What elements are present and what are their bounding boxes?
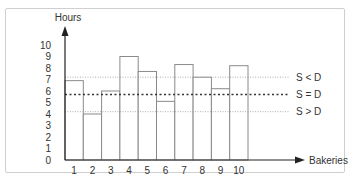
x-tick-4: 4 bbox=[126, 165, 132, 176]
y-axis-arrow-icon bbox=[62, 26, 69, 36]
x-tick-2: 2 bbox=[90, 165, 96, 176]
y-axis-label: Hours bbox=[55, 12, 82, 23]
x-tick-9: 9 bbox=[218, 165, 224, 176]
bar-8 bbox=[193, 77, 211, 160]
bar-4 bbox=[120, 57, 138, 161]
bar-2 bbox=[83, 114, 101, 160]
x-tick-7: 7 bbox=[181, 165, 187, 176]
bar-3 bbox=[102, 91, 120, 160]
y-tick-10: 10 bbox=[40, 40, 52, 51]
x-tick-10: 10 bbox=[233, 165, 245, 176]
y-tick-8: 8 bbox=[45, 63, 51, 74]
y-tick-0: 0 bbox=[45, 155, 51, 166]
y-tick-5: 5 bbox=[45, 97, 51, 108]
bar-5 bbox=[138, 71, 156, 160]
reference-label-1: S = D bbox=[296, 89, 321, 100]
reference-line-labels: S < DS = DS > D bbox=[296, 72, 321, 118]
x-tick-1: 1 bbox=[71, 165, 77, 176]
y-tick-6: 6 bbox=[45, 86, 51, 97]
reference-label-0: S < D bbox=[296, 72, 321, 83]
y-tick-3: 3 bbox=[45, 120, 51, 131]
bar-chart: 012345678910 12345678910 Hours Bakeries … bbox=[0, 0, 351, 181]
bar-6 bbox=[157, 101, 175, 160]
x-tick-8: 8 bbox=[199, 165, 205, 176]
bar-9 bbox=[211, 89, 229, 160]
bars-group bbox=[65, 57, 248, 161]
x-tick-6: 6 bbox=[163, 165, 169, 176]
x-tick-3: 3 bbox=[108, 165, 114, 176]
y-tick-labels: 012345678910 bbox=[40, 40, 52, 166]
y-tick-1: 1 bbox=[45, 143, 51, 154]
x-tick-5: 5 bbox=[145, 165, 151, 176]
bar-10 bbox=[230, 66, 248, 160]
x-tick-labels: 12345678910 bbox=[71, 165, 244, 176]
y-tick-7: 7 bbox=[45, 74, 51, 85]
reference-label-2: S > D bbox=[296, 106, 321, 117]
x-axis-label: Bakeries bbox=[309, 155, 348, 166]
bar-7 bbox=[175, 65, 193, 160]
y-tick-4: 4 bbox=[45, 109, 51, 120]
y-tick-2: 2 bbox=[45, 132, 51, 143]
x-axis-arrow-icon bbox=[295, 157, 305, 164]
bar-1 bbox=[65, 81, 83, 160]
y-tick-9: 9 bbox=[45, 51, 51, 62]
